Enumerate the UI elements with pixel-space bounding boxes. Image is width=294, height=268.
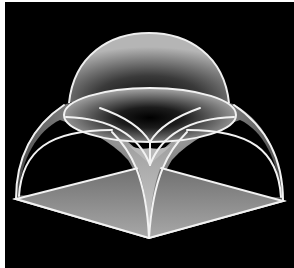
image-frame (0, 0, 294, 268)
ring-ellipse (64, 88, 236, 142)
diagram-canvas (5, 2, 294, 268)
pendentive-dome-diagram (5, 2, 294, 268)
